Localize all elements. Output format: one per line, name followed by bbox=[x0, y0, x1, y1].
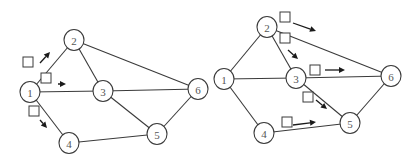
edge-3-6 bbox=[103, 89, 198, 91]
node-label: 2 bbox=[71, 35, 77, 47]
arrow-head-icon bbox=[60, 81, 66, 87]
arrow-shaft bbox=[288, 50, 294, 55]
node-5: 5 bbox=[147, 124, 167, 145]
node-3: 3 bbox=[93, 81, 113, 102]
node-label: 5 bbox=[154, 129, 160, 141]
arrow-shaft bbox=[40, 120, 43, 123]
arrow-shaft bbox=[316, 100, 322, 105]
edge-1-3 bbox=[224, 78, 296, 79]
node-6: 6 bbox=[188, 79, 208, 100]
flow-marker bbox=[41, 73, 66, 87]
flow-value-box bbox=[280, 33, 290, 43]
arrow-shaft bbox=[40, 56, 46, 63]
arrow-head-icon bbox=[339, 67, 345, 73]
node-5: 5 bbox=[340, 113, 360, 134]
flow-value-box bbox=[280, 12, 290, 22]
flow-value-box bbox=[303, 92, 313, 102]
node-4: 4 bbox=[254, 123, 274, 144]
node-2: 2 bbox=[64, 30, 84, 51]
arrow-shaft bbox=[293, 123, 310, 125]
edge-3-6 bbox=[296, 76, 391, 78]
flow-marker bbox=[282, 117, 316, 127]
flow-marker bbox=[23, 52, 50, 67]
node-label: 5 bbox=[347, 118, 353, 130]
flow-marker bbox=[280, 12, 316, 32]
node-3: 3 bbox=[286, 68, 306, 89]
flow-value-box bbox=[29, 106, 39, 116]
flow-marker bbox=[310, 65, 345, 75]
edge-2-6 bbox=[74, 40, 198, 89]
node-4: 4 bbox=[59, 133, 79, 154]
arrow-head-icon bbox=[310, 120, 316, 126]
node-label: 1 bbox=[27, 87, 33, 99]
node-label: 6 bbox=[388, 71, 394, 83]
node-label: 6 bbox=[195, 84, 201, 96]
arrow-shaft bbox=[293, 23, 310, 29]
flow-value-box bbox=[23, 57, 33, 67]
flow-marker bbox=[29, 106, 47, 128]
node-label: 1 bbox=[221, 74, 227, 86]
node-1: 1 bbox=[20, 82, 40, 103]
node-label: 4 bbox=[66, 138, 72, 150]
flow-value-box bbox=[282, 117, 292, 127]
node-label: 4 bbox=[261, 128, 267, 140]
edge-4-5 bbox=[69, 134, 157, 143]
right-graph: 123456 bbox=[214, 12, 401, 144]
node-2: 2 bbox=[257, 17, 277, 38]
edge-1-3 bbox=[30, 91, 103, 92]
node-label: 3 bbox=[100, 86, 106, 98]
node-label: 3 bbox=[293, 73, 299, 85]
flow-value-box bbox=[310, 65, 320, 75]
left-graph: 123456 bbox=[20, 30, 208, 154]
node-1: 1 bbox=[214, 69, 234, 90]
edge-4-5 bbox=[264, 123, 350, 133]
flow-value-box bbox=[41, 73, 51, 83]
node-label: 2 bbox=[264, 22, 270, 34]
arrow-head-icon bbox=[309, 26, 316, 32]
network-diagram-canvas: 123456123456 bbox=[0, 0, 420, 159]
node-6: 6 bbox=[381, 66, 401, 87]
